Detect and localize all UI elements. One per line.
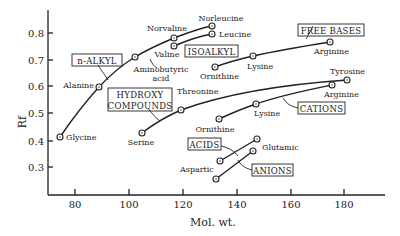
label-anions: ANIONS bbox=[252, 166, 292, 176]
point-label-norvaline: Norvaline bbox=[147, 24, 187, 33]
point-label-aspartic: Aspartic bbox=[179, 165, 214, 174]
x-tick-label: 160 bbox=[281, 199, 300, 210]
x-axis-title: Mol. wt. bbox=[190, 216, 236, 229]
point-label-valine: Valine bbox=[154, 50, 180, 59]
label-free-bases: FREE BASES bbox=[301, 26, 362, 36]
point-label-lysine-fb: Lysine bbox=[247, 62, 274, 71]
label-compounds: COMPOUNDS bbox=[108, 101, 173, 111]
point-label-ornithine-fb: Ornithine bbox=[200, 72, 239, 81]
x-tick-label: 140 bbox=[227, 199, 246, 210]
y-tick-label: 0.6 bbox=[28, 81, 44, 92]
point-label-tyrosine: Tyrosine bbox=[330, 67, 365, 76]
y-axis-title: Rf bbox=[16, 115, 29, 128]
y-tick-label: 0.8 bbox=[28, 28, 44, 39]
point-label-arginine-fb: Arginine bbox=[313, 47, 349, 56]
label-n-alkyl: n-ALKYL bbox=[77, 56, 117, 66]
y-tick-label: 0.3 bbox=[28, 162, 44, 173]
label-cations: CATIONS bbox=[300, 104, 344, 114]
y-tick-label: 0.4 bbox=[28, 136, 44, 147]
point-label-aminobutyric: Aminobutyric bbox=[133, 65, 189, 74]
y-tick-label: 0.7 bbox=[28, 55, 44, 66]
x-tick-label: 120 bbox=[173, 199, 192, 210]
rf-vs-molecular-weight-chart: 0.8 0.7 0.6 0.5 0.4 0.3 80 100 120 140 1… bbox=[0, 0, 400, 236]
y-tick-label: 0.5 bbox=[28, 108, 44, 119]
x-tick-labels: 80 100 120 140 160 180 bbox=[69, 199, 354, 210]
curve-anions bbox=[216, 151, 253, 179]
x-tick-label: 100 bbox=[119, 199, 138, 210]
y-tick-labels: 0.8 0.7 0.6 0.5 0.4 0.3 bbox=[28, 28, 44, 173]
axes bbox=[48, 10, 385, 195]
point-label-lysine-cat: Lysine bbox=[254, 109, 281, 118]
point-label-ornithine-cat: Ornithine bbox=[196, 125, 235, 134]
point-label-arginine-cat: Arginine bbox=[323, 90, 359, 99]
label-isoalkyl: ISOALKYL bbox=[188, 47, 236, 57]
point-label-serine: Serine bbox=[128, 138, 155, 147]
point-label-norleucine: Norleucine bbox=[198, 14, 243, 23]
point-label-glutamic: Glutamic bbox=[262, 143, 299, 152]
point-label-acid: acid bbox=[153, 74, 170, 83]
label-hydroxy: HYDROXY bbox=[117, 90, 164, 100]
x-tick-label: 80 bbox=[69, 199, 82, 210]
point-label-alanine: Alanine bbox=[62, 81, 94, 90]
point-label-glycine: Glycine bbox=[66, 133, 97, 142]
point-label-leucine: Leucine bbox=[219, 30, 251, 39]
point-label-threonine: Threonine bbox=[177, 87, 219, 96]
x-tick-label: 180 bbox=[334, 199, 353, 210]
label-acids: ACIDS bbox=[188, 140, 219, 150]
